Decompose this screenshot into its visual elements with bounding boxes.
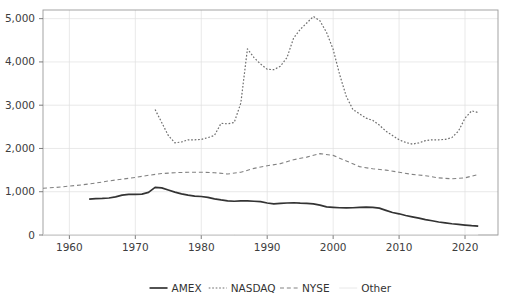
line-chart: 01,0002,0003,0004,0005,000 1960197019801… (0, 0, 511, 302)
legend-label-nyse: NYSE (302, 282, 330, 294)
x-tick-label: 1960 (56, 241, 83, 253)
y-tick-label: 0 (28, 229, 35, 241)
series-line-nasdaq (155, 16, 478, 144)
plot-border (43, 10, 498, 235)
chart-container: 01,0002,0003,0004,0005,000 1960197019801… (0, 0, 511, 302)
x-tick-label: 2000 (320, 241, 347, 253)
series-line-amex (89, 187, 478, 226)
legend-label-nasdaq: NASDAQ (231, 282, 276, 294)
chart-legend: AMEXNASDAQNYSEOther (150, 282, 392, 294)
y-axis-tick-labels: 01,0002,0003,0004,0005,000 (5, 12, 35, 240)
y-axis-ticks (39, 19, 43, 235)
x-tick-label: 1970 (122, 241, 149, 253)
y-tick-label: 1,000 (5, 185, 35, 197)
series-line-nyse (43, 154, 478, 189)
data-series-group (43, 16, 478, 234)
x-tick-label: 2010 (386, 241, 413, 253)
x-axis-ticks (69, 235, 465, 239)
y-tick-label: 5,000 (5, 12, 35, 24)
y-tick-label: 4,000 (5, 55, 35, 67)
legend-label-other: Other (361, 282, 391, 294)
x-tick-label: 1980 (188, 241, 215, 253)
x-tick-label: 1990 (254, 241, 281, 253)
gridlines (43, 10, 498, 235)
y-tick-label: 2,000 (5, 142, 35, 154)
x-axis-tick-labels: 1960197019801990200020102020 (56, 241, 478, 253)
x-tick-label: 2020 (452, 241, 479, 253)
legend-label-amex: AMEX (172, 282, 202, 294)
y-tick-label: 3,000 (5, 99, 35, 111)
